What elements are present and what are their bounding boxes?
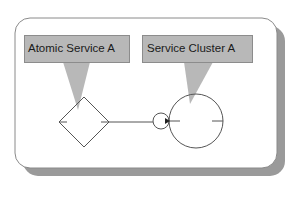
callout-label-service-cluster: Service Cluster A <box>147 43 235 55</box>
callout-label-atomic-service: Atomic Service A <box>28 43 115 55</box>
diagram-canvas <box>0 0 294 198</box>
